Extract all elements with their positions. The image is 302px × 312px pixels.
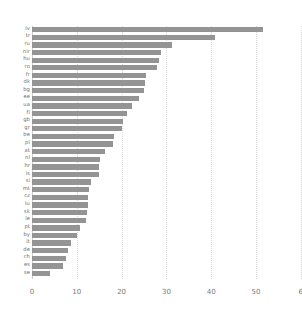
bar-row: hu xyxy=(0,56,302,64)
y-axis-label-bg: bg xyxy=(0,86,30,94)
bar-chart: lvtrrunirhurofrdkbgeeuafigbgrbeplatnlhri… xyxy=(0,0,302,312)
bar-row: ch xyxy=(0,255,302,263)
y-axis-label-hr: hr xyxy=(0,162,30,170)
bar-row: se xyxy=(0,270,302,278)
y-axis-label-it: it xyxy=(0,238,30,246)
bar-row: ua xyxy=(0,102,302,110)
bar-es xyxy=(32,263,63,268)
bar-row: be xyxy=(0,133,302,141)
y-axis-label-gr: gr xyxy=(0,124,30,132)
y-axis-label-fr: fr xyxy=(0,71,30,79)
bar-fr xyxy=(32,73,146,78)
bar-se xyxy=(32,271,50,276)
bar-dk xyxy=(32,80,145,85)
y-axis-label-at: at xyxy=(0,147,30,155)
bar-row: mt xyxy=(0,186,302,194)
x-axis-tick-10: 10 xyxy=(72,288,81,297)
bar-de xyxy=(32,248,68,253)
bar-row: pt xyxy=(0,224,302,232)
y-axis-label-is: is xyxy=(0,170,30,178)
bar-ee xyxy=(32,96,139,101)
y-axis-label-si: si xyxy=(0,177,30,185)
bar-row: si xyxy=(0,178,302,186)
y-axis-label-ru: ru xyxy=(0,40,30,48)
y-axis-label-ch: ch xyxy=(0,253,30,261)
bar-row: ie xyxy=(0,217,302,225)
y-axis-label-de: de xyxy=(0,246,30,254)
bar-at xyxy=(32,149,105,154)
bar-ru xyxy=(32,42,172,47)
y-axis-label-nl: nl xyxy=(0,154,30,162)
bar-bg xyxy=(32,88,144,93)
y-axis-label-es: es xyxy=(0,261,30,269)
bar-tr xyxy=(32,35,215,40)
bar-sk xyxy=(32,210,87,215)
y-axis-label-lv: lv xyxy=(0,25,30,33)
bar-nir xyxy=(32,50,161,55)
y-axis-label-pl: pl xyxy=(0,139,30,147)
bar-it xyxy=(32,240,71,245)
y-axis-label-ie: ie xyxy=(0,215,30,223)
bar-ch xyxy=(32,256,66,261)
bar-ie xyxy=(32,218,86,223)
y-axis-label-cz: cz xyxy=(0,192,30,200)
y-axis-label-nir: nir xyxy=(0,48,30,56)
bar-lv xyxy=(32,27,263,32)
bar-row: cz xyxy=(0,194,302,202)
bar-row: lu xyxy=(0,201,302,209)
y-axis-label-fi: fi xyxy=(0,109,30,117)
y-axis-label-tr: tr xyxy=(0,32,30,40)
bar-lu xyxy=(32,202,88,207)
y-axis-label-pt: pt xyxy=(0,223,30,231)
bar-nl xyxy=(32,157,100,162)
bar-cz xyxy=(32,195,88,200)
bar-row: pl xyxy=(0,140,302,148)
bar-row: is xyxy=(0,171,302,179)
bar-row: hr xyxy=(0,163,302,171)
bar-row: nl xyxy=(0,156,302,164)
bar-row: ro xyxy=(0,64,302,72)
bar-row: lv xyxy=(0,26,302,34)
bar-hr xyxy=(32,164,99,169)
y-axis-label-gb: gb xyxy=(0,116,30,124)
y-axis-label-se: se xyxy=(0,269,30,277)
bar-row: gr xyxy=(0,125,302,133)
bar-mt xyxy=(32,187,89,192)
bar-is xyxy=(32,172,99,177)
bar-row: bg xyxy=(0,87,302,95)
bar-row: de xyxy=(0,247,302,255)
y-axis-label-mt: mt xyxy=(0,185,30,193)
plot-area: lvtrrunirhurofrdkbgeeuafigbgrbeplatnlhri… xyxy=(0,0,302,312)
bar-row: at xyxy=(0,148,302,156)
bar-ro xyxy=(32,65,157,70)
bar-row: dk xyxy=(0,79,302,87)
y-axis-label-hu: hu xyxy=(0,55,30,63)
bar-row: fr xyxy=(0,72,302,80)
bar-row: fi xyxy=(0,110,302,118)
x-axis-tick-40: 40 xyxy=(207,288,216,297)
bar-row: sk xyxy=(0,209,302,217)
bar-ua xyxy=(32,103,132,108)
bar-si xyxy=(32,179,91,184)
bar-row: gb xyxy=(0,117,302,125)
y-axis-label-be: be xyxy=(0,131,30,139)
bar-gr xyxy=(32,126,122,131)
bar-be xyxy=(32,134,114,139)
y-axis-label-ee: ee xyxy=(0,93,30,101)
bar-hu xyxy=(32,58,159,63)
y-axis-label-dk: dk xyxy=(0,78,30,86)
x-axis-tick-60: 6 xyxy=(299,288,302,297)
x-axis-tick-20: 20 xyxy=(117,288,126,297)
bar-by xyxy=(32,233,77,238)
bar-row: ru xyxy=(0,41,302,49)
x-axis-tick-30: 30 xyxy=(162,288,171,297)
y-axis-label-by: by xyxy=(0,231,30,239)
y-axis-label-ua: ua xyxy=(0,101,30,109)
bar-pl xyxy=(32,141,113,146)
bar-row: it xyxy=(0,239,302,247)
y-axis-label-ro: ro xyxy=(0,63,30,71)
bar-row: es xyxy=(0,262,302,270)
y-axis-label-lu: lu xyxy=(0,200,30,208)
bar-fi xyxy=(32,111,127,116)
bar-row: by xyxy=(0,232,302,240)
